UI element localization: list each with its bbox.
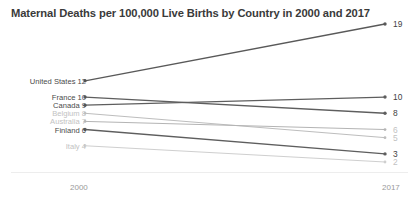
data-point-finland-end	[383, 152, 386, 155]
data-point-united-states-end	[383, 22, 386, 25]
right-value-france: 8	[393, 108, 398, 118]
x-axis-tick-2000: 2000	[70, 183, 88, 192]
data-point-belgium-end	[384, 136, 387, 139]
left-label-italy: Italy 4	[66, 141, 86, 150]
series-line-france	[85, 97, 385, 113]
series-line-united-states	[85, 24, 385, 81]
data-point-australia-end	[384, 128, 387, 131]
series-line-finland	[85, 130, 385, 154]
data-point-france-end	[383, 112, 386, 115]
series-line-canada	[85, 97, 385, 105]
data-point-canada-end	[383, 95, 386, 98]
right-value-canada: 10	[393, 92, 402, 102]
x-axis-tick-2017: 2017	[382, 183, 400, 192]
series-lines	[83, 22, 386, 163]
right-value-united-states: 19	[393, 19, 402, 29]
data-point-italy-end	[384, 161, 387, 164]
slope-chart: Maternal Deaths per 100,000 Live Births …	[0, 0, 419, 212]
series-line-italy	[85, 146, 385, 162]
right-value-italy: 2	[393, 157, 398, 167]
left-label-finland: Finland 6	[55, 125, 86, 134]
right-value-australia: 6	[393, 125, 398, 135]
left-label-united-states: United States 12	[30, 76, 86, 85]
series-line-australia	[85, 121, 385, 129]
